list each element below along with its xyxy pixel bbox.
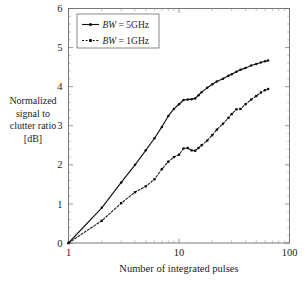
series-marker (194, 97, 197, 100)
chart-legend: BW = 5GHzBW = 1GHz (77, 14, 159, 48)
series-marker (200, 91, 203, 94)
series-marker (267, 88, 269, 90)
series-marker (190, 149, 192, 151)
y-axis-label-line: signal to (16, 108, 50, 119)
series-marker (211, 134, 213, 136)
legend-marker (89, 23, 92, 26)
legend-label-2: BW = 1GHz (103, 36, 150, 46)
series-marker (222, 78, 225, 81)
series-marker (145, 185, 147, 187)
series-marker (227, 117, 229, 119)
series-marker (167, 115, 170, 118)
series-marker (173, 108, 176, 111)
series-marker (187, 98, 190, 101)
series-marker (161, 168, 163, 170)
x-tick-label: 10 (174, 247, 185, 258)
series-marker (235, 71, 238, 74)
series-marker (120, 202, 122, 204)
series-marker (197, 147, 199, 149)
series-marker (244, 67, 247, 70)
series-marker (194, 150, 196, 152)
series-marker (153, 137, 156, 140)
series-marker (200, 144, 202, 146)
series-marker (255, 95, 257, 97)
y-axis-label-line: clutter ratio (10, 120, 56, 131)
y-axis-label: Normalizedsignal toclutter ratio[dB] (9, 95, 56, 144)
series-marker (161, 126, 164, 129)
series-marker (197, 94, 200, 97)
series-marker (206, 139, 208, 141)
series-marker (222, 123, 224, 125)
series-marker (182, 147, 184, 149)
y-tick-label: 4 (57, 81, 63, 92)
y-tick-label: 5 (57, 42, 62, 53)
signal-to-clutter-ratio-chart: 0123456110100 Normalizedsignal toclutter… (0, 0, 308, 282)
series-line-2 (69, 89, 269, 243)
series-marker (250, 64, 253, 67)
x-axis-title: Number of integrated pulses (119, 263, 238, 274)
series-marker (255, 63, 258, 66)
series-marker (230, 73, 233, 76)
series-marker (101, 207, 104, 210)
x-tick-label: 100 (282, 247, 298, 258)
y-tick-label: 1 (57, 199, 62, 210)
y-tick-label: 2 (57, 159, 62, 170)
series-marker (231, 113, 233, 115)
series-marker (260, 61, 263, 64)
x-tick-label: 1 (66, 247, 71, 258)
series-marker (216, 80, 219, 83)
legend-label-1: BW = 5GHz (103, 20, 150, 30)
legend-marker (89, 39, 92, 42)
series-marker (190, 98, 193, 101)
series-marker (134, 164, 137, 167)
series-marker (144, 149, 147, 152)
series-marker (244, 103, 246, 105)
series-marker (264, 89, 266, 91)
y-axis-label-line: [dB] (24, 133, 42, 144)
series-marker (182, 99, 185, 102)
series-marker (187, 147, 189, 149)
y-tick-label: 3 (57, 120, 62, 131)
series-marker (267, 59, 270, 62)
series-marker (153, 178, 155, 180)
series-marker (250, 98, 252, 100)
series-marker (206, 87, 209, 90)
y-tick-label: 0 (57, 238, 62, 249)
series-marker (167, 161, 169, 163)
y-axis-label-line: Normalized (9, 95, 56, 106)
series-marker (178, 103, 181, 106)
series-marker (178, 154, 180, 156)
series-line-1 (69, 60, 269, 243)
series-marker (239, 69, 242, 72)
series-marker (216, 129, 218, 131)
series-marker (211, 83, 214, 86)
series-marker (239, 108, 241, 110)
series-marker (173, 156, 175, 158)
data-series-layer (67, 59, 269, 244)
series-marker (67, 242, 69, 244)
y-tick-label: 6 (57, 3, 62, 14)
series-marker (134, 191, 136, 193)
series-marker (264, 60, 267, 63)
series-marker (120, 181, 123, 184)
chart-figure: 0123456110100 Normalizedsignal toclutter… (0, 0, 308, 282)
series-marker (101, 220, 103, 222)
series-marker (235, 108, 237, 110)
series-marker (260, 91, 262, 93)
series-marker (227, 74, 230, 77)
